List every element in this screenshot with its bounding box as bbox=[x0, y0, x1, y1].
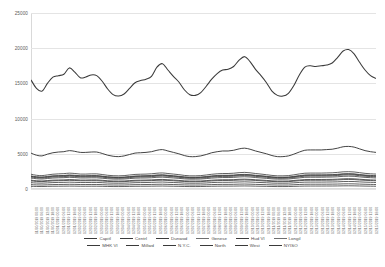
x-tick-label: 12/15/2019 00:00 bbox=[358, 207, 362, 234]
x-tick-label: 12/09/2019 06:00 bbox=[234, 207, 238, 234]
x-tick-label: 12/12/2019 06:00 bbox=[299, 207, 303, 234]
legend-item-capitl[interactable]: Capitl bbox=[84, 236, 111, 241]
x-tick-label: 12/03/2019 06:00 bbox=[105, 207, 109, 234]
x-tick-label: 12/01/2019 12:00 bbox=[67, 207, 71, 234]
y-tick-label: 15000 bbox=[15, 81, 28, 86]
x-tick-label: 12/13/2019 18:00 bbox=[331, 207, 335, 234]
x-tick-label: 12/14/2019 06:00 bbox=[342, 207, 346, 234]
legend-label: Millwd bbox=[141, 243, 154, 248]
legend-item-longil[interactable]: Longil bbox=[274, 236, 301, 241]
x-tick-label: 12/04/2019 06:00 bbox=[127, 207, 131, 234]
legend-swatch-icon bbox=[126, 245, 139, 246]
legend-item-north[interactable]: North bbox=[200, 243, 226, 248]
x-tick-label: 12/12/2019 00:00 bbox=[294, 207, 298, 234]
legend-row: MHK VlMillwdN.Y.C.NorthWestNYISO bbox=[87, 243, 297, 248]
legend-item-mhk-vl[interactable]: MHK Vl bbox=[87, 243, 117, 248]
legend-item-west[interactable]: West bbox=[235, 243, 260, 248]
legend-label: Dunwod bbox=[171, 236, 187, 241]
series-line bbox=[31, 184, 376, 185]
x-tick-label: 12/05/2019 00:00 bbox=[143, 207, 147, 234]
x-tick-label: 12/04/2019 00:00 bbox=[121, 207, 125, 234]
legend-label: Hud Vl bbox=[251, 236, 264, 241]
legend-label: MHK Vl bbox=[102, 243, 117, 248]
legend-label: North bbox=[215, 243, 226, 248]
x-tick-label: 12/07/2019 12:00 bbox=[197, 207, 201, 234]
x-tick-label: 12/12/2019 12:00 bbox=[304, 207, 308, 234]
x-tick-label: 12/13/2019 06:00 bbox=[321, 207, 325, 234]
legend-label: NYISO bbox=[284, 243, 298, 248]
x-tick-label: 12/05/2019 12:00 bbox=[153, 207, 157, 234]
x-tick-label: 12/09/2019 18:00 bbox=[245, 207, 249, 234]
y-tick-label: 25000 bbox=[15, 11, 28, 16]
x-tick-label: 12/14/2019 00:00 bbox=[337, 207, 341, 234]
legend-item-dunwod[interactable]: Dunwod bbox=[156, 236, 187, 241]
x-tick-label: 12/02/2019 06:00 bbox=[83, 207, 87, 234]
legend-item-centrl[interactable]: Centrl bbox=[120, 236, 147, 241]
x-tick-label: 11/30/2019 06:00 bbox=[40, 207, 44, 234]
x-tick-label: 12/10/2019 06:00 bbox=[256, 207, 260, 234]
x-tick-label: 12/01/2019 00:00 bbox=[56, 207, 60, 234]
series-paths bbox=[31, 13, 376, 189]
x-tick-label: 12/07/2019 18:00 bbox=[202, 207, 206, 234]
x-tick-label: 12/11/2019 18:00 bbox=[288, 207, 292, 234]
x-axis: 11/30/2019 00:0011/30/2019 06:0011/30/20… bbox=[31, 190, 376, 236]
x-tick-label: 12/05/2019 06:00 bbox=[148, 207, 152, 234]
x-tick-label: 11/30/2019 12:00 bbox=[46, 207, 50, 234]
x-tick-label: 12/05/2019 18:00 bbox=[159, 207, 163, 234]
x-tick-label: 12/11/2019 12:00 bbox=[283, 207, 287, 234]
legend-swatch-icon bbox=[87, 245, 100, 246]
legend-swatch-icon bbox=[84, 238, 97, 239]
y-tick-label: 5000 bbox=[17, 151, 28, 156]
legend-item-n-y-c[interactable]: N.Y.C. bbox=[163, 243, 191, 248]
line-chart: 2500020000150001000050000 11/30/2019 00:… bbox=[0, 0, 385, 267]
x-tick-label: 12/13/2019 00:00 bbox=[315, 207, 319, 234]
x-tick-label: 12/10/2019 12:00 bbox=[261, 207, 265, 234]
x-tick-label: 12/13/2019 12:00 bbox=[326, 207, 330, 234]
x-tick-label: 12/03/2019 12:00 bbox=[110, 207, 114, 234]
series-line bbox=[31, 186, 376, 187]
x-tick-label: 12/03/2019 00:00 bbox=[100, 207, 104, 234]
legend-item-nyiso[interactable]: NYISO bbox=[269, 243, 298, 248]
x-tick-label: 12/02/2019 00:00 bbox=[78, 207, 82, 234]
x-tick-label: 12/09/2019 12:00 bbox=[240, 207, 244, 234]
legend-swatch-icon bbox=[156, 238, 169, 239]
legend-item-hud-vl[interactable]: Hud Vl bbox=[236, 236, 264, 241]
x-tick-label: 12/08/2019 06:00 bbox=[213, 207, 217, 234]
x-tick-label: 12/10/2019 18:00 bbox=[267, 207, 271, 234]
x-tick-label: 12/15/2019 12:00 bbox=[369, 207, 373, 234]
x-tick-label: 12/12/2019 18:00 bbox=[310, 207, 314, 234]
x-tick-label: 12/08/2019 00:00 bbox=[207, 207, 211, 234]
legend-swatch-icon bbox=[235, 245, 248, 246]
x-tick-label: 12/11/2019 00:00 bbox=[272, 207, 276, 234]
legend-label: Capitl bbox=[99, 236, 111, 241]
legend-swatch-icon bbox=[236, 238, 249, 239]
chart-legend: CapitlCentrlDunwodGeneseHud VlLongilMHK … bbox=[0, 236, 385, 262]
y-tick-label: 0 bbox=[25, 187, 28, 192]
x-tick-label: 11/30/2019 00:00 bbox=[35, 207, 39, 234]
x-tick-label: 12/06/2019 00:00 bbox=[164, 207, 168, 234]
legend-label: Centrl bbox=[135, 236, 147, 241]
x-tick-label: 12/08/2019 12:00 bbox=[218, 207, 222, 234]
legend-item-millwd[interactable]: Millwd bbox=[126, 243, 154, 248]
x-tick-label: 12/03/2019 18:00 bbox=[116, 207, 120, 234]
legend-label: N.Y.C. bbox=[178, 243, 191, 248]
x-tick-label: 12/06/2019 18:00 bbox=[180, 207, 184, 234]
x-tick-label: 11/30/2019 18:00 bbox=[51, 207, 55, 234]
x-tick-label: 12/07/2019 06:00 bbox=[191, 207, 195, 234]
x-tick-label: 12/04/2019 18:00 bbox=[137, 207, 141, 234]
legend-label: Longil bbox=[289, 236, 301, 241]
series-line bbox=[31, 49, 376, 96]
x-tick-label: 12/01/2019 06:00 bbox=[62, 207, 66, 234]
legend-swatch-icon bbox=[274, 238, 287, 239]
legend-item-genese[interactable]: Genese bbox=[196, 236, 227, 241]
x-tick-label: 12/15/2019 06:00 bbox=[364, 207, 368, 234]
legend-swatch-icon bbox=[200, 245, 213, 246]
x-tick-label: 12/07/2019 00:00 bbox=[186, 207, 190, 234]
plot-area bbox=[31, 13, 376, 189]
x-tick-label: 12/11/2019 06:00 bbox=[277, 207, 281, 234]
legend-swatch-icon bbox=[163, 245, 176, 246]
series-line bbox=[31, 146, 376, 156]
legend-label: West bbox=[250, 243, 260, 248]
legend-swatch-icon bbox=[196, 238, 209, 239]
x-tick-label: 12/02/2019 18:00 bbox=[94, 207, 98, 234]
